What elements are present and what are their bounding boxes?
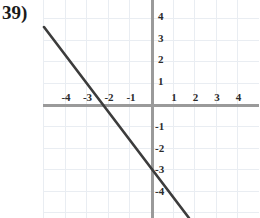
plotted-line: [44, 27, 189, 218]
grid-vertical-lines: [44, 0, 260, 218]
x-tick-label: -1: [126, 91, 135, 103]
y-tick-label: -2: [155, 142, 165, 154]
graph-figure: 39): [0, 0, 259, 218]
y-axis-tick-labels: 4 3 2 1 -1 -2 -3 -4: [155, 10, 165, 197]
x-tick-label: -4: [61, 91, 71, 103]
y-tick-label: 3: [158, 32, 164, 44]
x-tick-label: 3: [214, 91, 220, 103]
y-tick-label: 4: [158, 10, 164, 22]
x-tick-label: -2: [104, 91, 114, 103]
x-tick-label: -3: [83, 91, 93, 103]
coordinate-plane: -4 -3 -2 -1 1 2 3 4 4 3 2 1 -1 -2 -3 -4: [0, 0, 259, 218]
x-tick-label: 2: [193, 91, 199, 103]
y-tick-label: 2: [158, 53, 164, 65]
x-tick-label: 1: [171, 91, 177, 103]
y-tick-label: -1: [155, 120, 164, 132]
y-tick-label: 1: [158, 75, 164, 87]
grid-horizontal-lines: [43, 19, 259, 213]
y-tick-label: -4: [155, 185, 165, 197]
x-tick-label: 4: [236, 91, 242, 103]
y-tick-label: -3: [155, 163, 165, 175]
